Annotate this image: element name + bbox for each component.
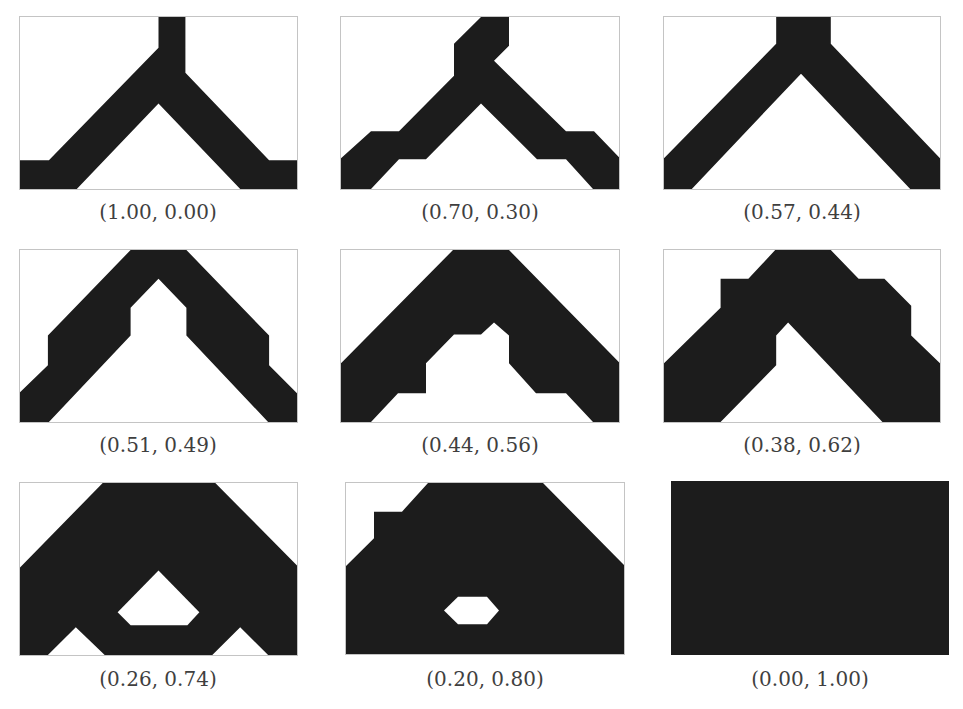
design-shape-3 [664,17,940,189]
design-shape-9 [672,482,948,654]
design-panel-2 [340,16,620,190]
design-shape-8 [346,483,624,654]
design-shape-2 [341,17,619,189]
weight-label-2: (0.70, 0.30) [330,200,630,224]
weight-label-8: (0.20, 0.80) [335,667,635,691]
design-panel-4 [19,249,298,423]
design-panel-7 [19,482,298,656]
weight-label-7: (0.26, 0.74) [8,667,308,691]
material-region [20,17,297,189]
weight-label-5: (0.44, 0.56) [330,433,630,457]
design-panel-8 [345,482,625,655]
design-panel-9 [671,481,949,655]
weight-label-6: (0.38, 0.62) [652,433,952,457]
weight-label-3: (0.57, 0.44) [652,200,952,224]
design-shape-5 [341,250,619,422]
material-region [664,250,940,422]
weight-label-9: (0.00, 1.00) [660,667,960,691]
design-panel-6 [663,249,941,423]
material-region [346,483,624,654]
design-panel-3 [663,16,941,190]
material-region [20,250,297,422]
material-region [672,482,948,654]
design-shape-7 [20,483,297,655]
material-region [20,483,297,655]
design-shape-4 [20,250,297,422]
weight-label-1: (1.00, 0.00) [8,200,308,224]
design-panel-5 [340,249,620,423]
design-shape-6 [664,250,940,422]
design-shape-1 [20,17,297,189]
material-region [341,250,619,422]
weight-label-4: (0.51, 0.49) [8,433,308,457]
design-panel-1 [19,16,298,190]
material-region [664,17,940,189]
material-region [341,17,619,189]
